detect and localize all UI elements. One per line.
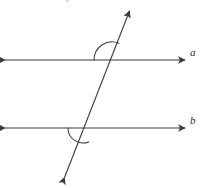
line-b-label: b <box>190 114 196 126</box>
top-edge-stray-mark <box>66 0 69 2</box>
transversal-line <box>65 11 130 178</box>
top-angle-arc <box>94 42 119 60</box>
geometry-canvas: a b <box>0 0 200 188</box>
line-a-label: a <box>190 46 196 58</box>
geometry-diagram: a b <box>0 0 200 188</box>
